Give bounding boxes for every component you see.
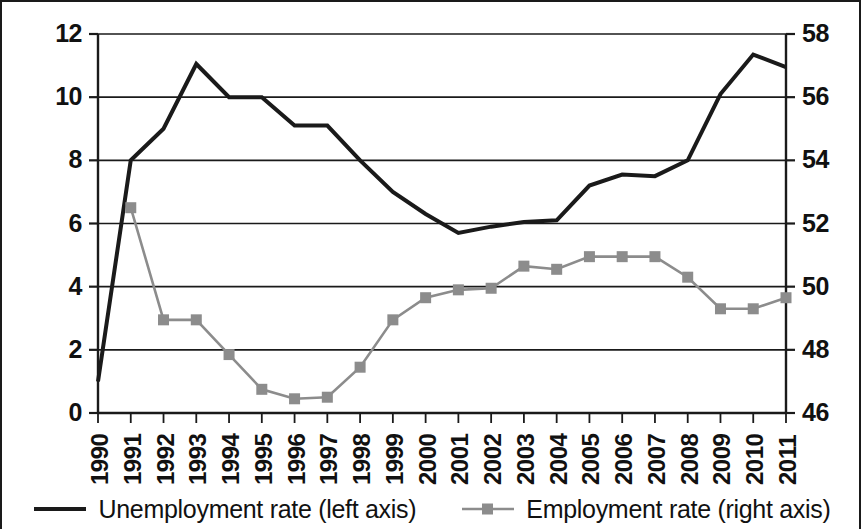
x-axis-tick-label: 1993: [186, 434, 210, 485]
legend-line-icon: [34, 501, 86, 517]
series-marker: [355, 362, 366, 373]
series-line-2: [131, 208, 786, 399]
x-axis-tick-label: 1996: [285, 434, 309, 485]
left-axis-tick-label: 10: [2, 84, 82, 109]
series-marker: [518, 261, 529, 272]
series-marker: [617, 251, 628, 262]
x-axis-tick-label: 2009: [710, 434, 734, 485]
left-axis-tick-label: 8: [2, 147, 82, 172]
left-axis-tick-label: 0: [2, 400, 82, 425]
series-marker: [453, 284, 464, 295]
series-marker: [420, 292, 431, 303]
right-axis-tick-label: 58: [802, 21, 829, 46]
x-axis-tick-label: 2003: [514, 434, 538, 485]
series-marker: [781, 292, 792, 303]
x-axis-tick-label: 1992: [154, 434, 178, 485]
left-axis-tick-label: 6: [2, 211, 82, 236]
series-marker: [649, 251, 660, 262]
x-axis-tick-label: 2011: [776, 435, 800, 485]
x-axis-tick-label: 1994: [219, 434, 243, 485]
series-marker: [486, 283, 497, 294]
x-axis-tick-label: 2002: [481, 434, 505, 485]
left-axis-tick-label: 12: [2, 21, 82, 46]
x-tick-marks-group: [98, 413, 786, 423]
series-marker: [715, 303, 726, 314]
right-axis-tick-label: 48: [802, 337, 829, 362]
series-marker: [551, 264, 562, 275]
chart-figure: 024681012 46485052545658 199019911992199…: [0, 0, 861, 529]
series-marker: [748, 303, 759, 314]
legend-item[interactable]: Employment rate (right axis): [462, 495, 830, 524]
series-marker: [125, 202, 136, 213]
series-marker: [322, 392, 333, 403]
x-axis-tick-label: 2000: [416, 434, 440, 485]
series-marker: [387, 314, 398, 325]
series-marker: [191, 314, 202, 325]
x-axis-tick-label: 2005: [579, 434, 603, 485]
left-axis-tick-label: 4: [2, 274, 82, 299]
legend-line-marker-icon: [462, 501, 514, 517]
legend-label: Employment rate (right axis): [526, 495, 830, 524]
legend-label: Unemployment rate (left axis): [98, 495, 416, 524]
series-marker: [256, 384, 267, 395]
legend-swatch-marker: [482, 504, 493, 515]
right-axis-tick-label: 56: [802, 84, 829, 109]
right-axis-tick-label: 50: [802, 274, 829, 299]
x-axis-tick-label: 1991: [121, 434, 145, 485]
x-axis-tick-label: 1999: [383, 434, 407, 485]
series-marker: [224, 349, 235, 360]
right-axis-tick-label: 46: [802, 400, 829, 425]
series-line-1: [98, 55, 786, 382]
series-marker: [158, 314, 169, 325]
series-marker: [584, 251, 595, 262]
x-axis-tick-label: 2008: [678, 434, 702, 485]
series-marker: [682, 272, 693, 283]
x-axis-tick-label: 1997: [317, 434, 341, 485]
x-axis-tick-label: 1990: [88, 434, 112, 485]
right-axis-tick-label: 52: [802, 211, 829, 236]
legend-item[interactable]: Unemployment rate (left axis): [34, 495, 416, 524]
x-axis-tick-label: 2007: [645, 434, 669, 485]
data-series-group: [98, 55, 792, 405]
x-axis-tick-label: 2006: [612, 434, 636, 485]
right-axis-tick-label: 54: [802, 147, 829, 172]
left-axis-tick-label: 2: [2, 337, 82, 362]
x-axis-tick-label: 2001: [448, 434, 472, 485]
series-marker: [289, 393, 300, 404]
chart-legend: Unemployment rate (left axis)Employment …: [2, 489, 861, 529]
x-axis-tick-label: 2010: [743, 434, 767, 485]
x-axis-tick-label: 2004: [547, 434, 571, 485]
x-axis-tick-label: 1998: [350, 434, 374, 485]
x-axis-tick-label: 1995: [252, 434, 276, 485]
